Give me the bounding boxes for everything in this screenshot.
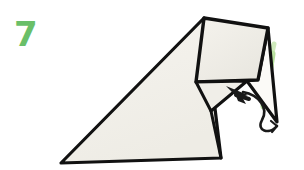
top-folded-flap: [196, 18, 268, 82]
diagram-canvas: 7: [0, 0, 304, 170]
origami-step-figure: 7: [0, 0, 304, 170]
step-number: 7: [14, 14, 38, 54]
